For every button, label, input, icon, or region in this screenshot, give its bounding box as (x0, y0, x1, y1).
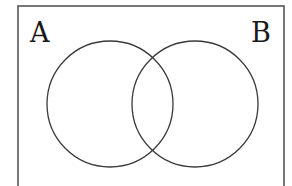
set-b-label: B (251, 17, 271, 48)
set-b-circle (132, 41, 258, 167)
set-a-label: A (29, 17, 50, 48)
universal-set-rectangle (18, 6, 284, 186)
venn-diagram: A B (0, 0, 292, 186)
set-a-circle (47, 41, 173, 167)
